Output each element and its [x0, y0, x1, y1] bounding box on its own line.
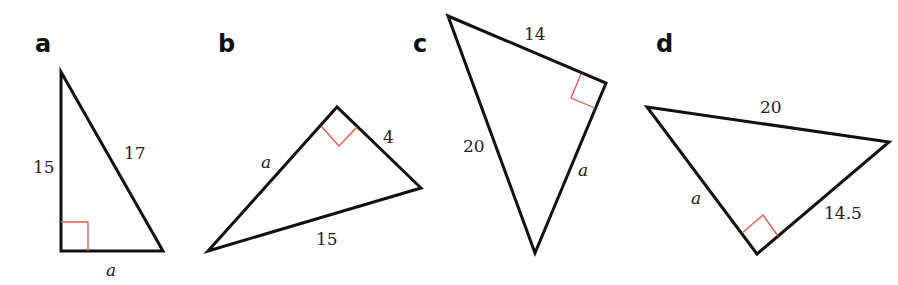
triangle-b: b a 4 15 [208, 30, 421, 251]
triangle-c-shape [448, 16, 606, 253]
panel-label-a: a [35, 30, 51, 58]
triangle-d: d 20 a 14.5 [647, 30, 889, 254]
side-label-a-hypotenuse: 17 [124, 143, 146, 163]
side-label-a-vertical: 15 [33, 157, 55, 177]
side-label-a-base: a [106, 260, 116, 280]
right-angle-marker-d [742, 215, 778, 236]
side-label-d-left: a [691, 188, 701, 208]
panel-label-d: d [656, 30, 673, 58]
triangle-c: c 14 20 a [413, 16, 606, 253]
side-label-b-right: 4 [383, 127, 394, 147]
triangle-d-shape [647, 107, 889, 254]
side-label-c-top: 14 [524, 24, 546, 44]
right-angle-marker-b [321, 126, 357, 146]
right-angle-marker-c [571, 74, 595, 108]
side-label-c-hypotenuse: 20 [463, 136, 485, 156]
side-label-c-right: a [578, 160, 588, 180]
side-label-d-right: 14.5 [824, 203, 862, 223]
side-label-d-hypotenuse: 20 [760, 97, 782, 117]
triangle-a-shape [61, 72, 163, 251]
side-label-b-left: a [261, 152, 271, 172]
triangle-a: a 15 17 a [33, 30, 163, 280]
right-triangles-diagram: a 15 17 a b a 4 15 c 14 20 a d 20 a 14.5 [0, 0, 898, 285]
panel-label-b: b [218, 30, 235, 58]
panel-label-c: c [413, 30, 427, 58]
side-label-b-hypotenuse: 15 [316, 229, 338, 249]
right-angle-marker-a [61, 222, 88, 251]
